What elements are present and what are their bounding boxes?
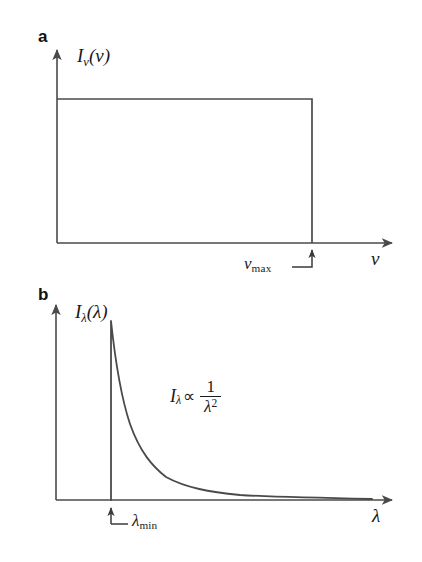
panel-b-y-label-argument: (λ) xyxy=(87,301,108,322)
panel-b-y-label-subscript: λ xyxy=(81,311,86,325)
panel-b-letter: b xyxy=(38,286,48,303)
proportionality-annotation: Iλ ∝ 1 λ2 xyxy=(170,378,221,415)
panel-a-tick-label: νmax xyxy=(244,255,271,272)
annotation-denominator-exponent: 2 xyxy=(211,397,217,410)
panel-a-y-axis-label: Iν(ν) xyxy=(77,46,110,65)
annotation-fraction: 1 λ2 xyxy=(200,378,221,415)
annotation-denominator: λ2 xyxy=(201,397,220,415)
panel-b-tick-label: λmin xyxy=(132,512,157,529)
annotation-lhs-subscript: λ xyxy=(176,393,181,408)
panel-a-step-curve xyxy=(57,99,312,243)
panel-a-tick-leader xyxy=(292,250,312,267)
panel-a-graphics xyxy=(57,50,392,267)
panel-b-y-axis-label: Iλ(λ) xyxy=(75,302,108,321)
panel-a-letter: a xyxy=(38,28,47,45)
panel-a-y-label-argument: (ν) xyxy=(89,45,110,66)
panel-a-y-label-subscript: ν xyxy=(83,55,89,69)
figure-canvas xyxy=(0,0,422,562)
proportional-sign: ∝ xyxy=(183,386,195,407)
annotation-numerator: 1 xyxy=(203,378,218,396)
panel-a-tick-symbol: ν xyxy=(244,254,252,273)
panel-a-x-axis-label: ν xyxy=(371,249,379,268)
figure-root: a Iν(ν) ν νmax b Iλ(λ) λ λmin Iλ ∝ 1 λ2 xyxy=(0,0,422,562)
panel-b-graphics xyxy=(56,305,392,524)
panel-b-x-axis-label: λ xyxy=(372,506,380,525)
panel-a-tick-subscript: max xyxy=(252,262,272,274)
panel-b-tick-subscript: min xyxy=(139,519,157,531)
panel-b-decay-curve xyxy=(111,321,372,500)
